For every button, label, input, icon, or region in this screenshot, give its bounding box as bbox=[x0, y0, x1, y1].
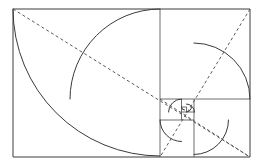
golden-spiral-figure: Golden Ratio Fibonacci Spiral Diagram bbox=[0, 0, 262, 166]
